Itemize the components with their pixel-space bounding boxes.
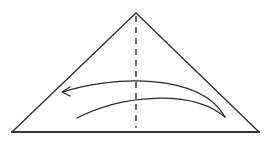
triangle-left-edge — [12, 13, 136, 132]
fold-arrow-lower-curve — [77, 98, 225, 118]
fold-arrow-icon — [62, 81, 225, 118]
triangle-right-edge — [136, 13, 259, 132]
origami-diagram — [0, 0, 267, 146]
